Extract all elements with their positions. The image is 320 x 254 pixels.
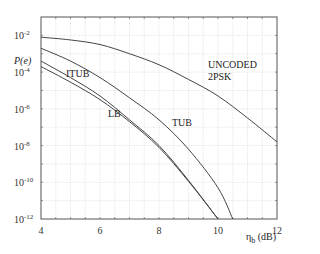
- x-tick-label: 4: [39, 225, 44, 236]
- uncoded-label-line2: 2PSK: [208, 71, 232, 82]
- x-tick-label: 10: [213, 225, 223, 236]
- x-axis-label: ηb (dB): [246, 231, 276, 245]
- y-tick-label: 10-10: [14, 176, 34, 188]
- grid-lines: [41, 17, 277, 219]
- y-tick-label: 10-2: [14, 29, 30, 41]
- lb-label: LB: [108, 108, 121, 119]
- y-tick-label: 10-6: [14, 103, 30, 115]
- y-tick-label: 10-12: [14, 213, 34, 225]
- itub-label: ITUB: [66, 68, 90, 79]
- uncoded-label-line1: UNCODED: [208, 59, 257, 70]
- ber-chart: 10-210-410-610-810-1010-12 4681012 P(e) …: [0, 0, 320, 254]
- tub-label: TUB: [172, 117, 192, 128]
- x-tick-label: 6: [98, 225, 103, 236]
- y-tick-label: 10-4: [14, 66, 30, 78]
- x-tick-label: 8: [157, 225, 162, 236]
- y-axis-label: P(e): [13, 55, 32, 67]
- y-tick-label: 10-8: [14, 140, 30, 152]
